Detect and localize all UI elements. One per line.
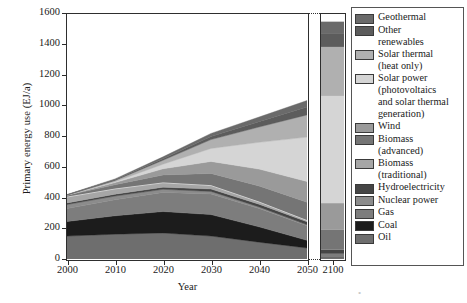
legend-item[interactable]: Hydroelectricity [355, 181, 461, 194]
x-axis-tick-mark [212, 261, 213, 265]
legend-swatch-icon [355, 221, 374, 231]
legend-item-label: Coal [378, 219, 461, 231]
y-axis-tick-label: 1000 [24, 99, 60, 109]
legend-item[interactable]: Gas [355, 206, 461, 219]
area-band-2100 [321, 250, 344, 254]
legend-item[interactable]: Solar thermal (heat only) [355, 48, 461, 72]
legend-item-label: Solar power (photovoltaics and solar the… [378, 72, 461, 120]
x-axis-tick-label: 2100 [310, 264, 356, 275]
legend-item[interactable]: Biomass (traditional) [355, 157, 461, 181]
y-axis-tick-label: 800 [24, 130, 60, 140]
legend-item[interactable]: Solar power (photovoltaics and solar the… [355, 72, 461, 120]
legend-item-label: Other renewables [378, 24, 461, 48]
legend-item[interactable]: Geothermal [355, 11, 461, 24]
legend-item-label: Biomass (advanced) [378, 133, 461, 157]
legend-item-label: Wind [378, 120, 461, 132]
legend: GeothermalOther renewablesSolar thermal … [351, 7, 464, 266]
legend-item-label: Oil [378, 231, 461, 243]
legend-swatch-icon [355, 196, 374, 206]
area-band-2100 [321, 47, 344, 96]
legend-swatch-icon [355, 159, 374, 169]
y-axis-tick-mark [62, 75, 66, 76]
y-axis-tick-mark [62, 44, 66, 45]
x-axis-tick-label: 2030 [189, 264, 235, 275]
legend-swatch-icon [355, 184, 374, 194]
main-plot-area [66, 13, 309, 261]
area-band-2100 [321, 33, 344, 47]
y-axis-tick-label: 1200 [24, 69, 60, 79]
legend-item-label: Solar thermal (heat only) [378, 48, 461, 72]
x-axis-tick-label: 2010 [93, 264, 139, 275]
y-axis-tick-group: 16001400120010008006004002000 [22, 0, 60, 303]
axis-break-dashes [309, 13, 320, 14]
area-band-2100 [321, 22, 344, 33]
energy-scenario-chart-figure: Primary energy use (EJ/a) 16001400120010… [0, 0, 467, 303]
legend-item-label: Nuclear power [378, 194, 461, 206]
y-axis-tick-label: 1400 [24, 38, 60, 48]
y-axis-tick-mark [62, 198, 66, 199]
legend-item[interactable]: Wind [355, 120, 461, 133]
legend-item[interactable]: Nuclear power [355, 194, 461, 207]
x-axis-tick-mark [164, 261, 165, 265]
area-band-2100 [321, 96, 344, 203]
x-axis-tick-label: 2000 [45, 264, 91, 275]
area-band-2100 [321, 230, 344, 250]
legend-swatch-icon [355, 26, 374, 36]
x-axis-tick-mark [116, 261, 117, 265]
y-axis-tick-mark [62, 167, 66, 168]
legend-item[interactable]: Oil [355, 231, 461, 244]
y-axis-tick-label: 1600 [24, 7, 60, 17]
legend-swatch-icon [355, 234, 374, 244]
legend-swatch-icon [355, 50, 374, 60]
x-axis-tick-mark [68, 261, 69, 265]
legend-swatch-icon [355, 14, 374, 24]
x-axis-title: Year [66, 281, 309, 292]
y-axis-tick-label: 0 [24, 253, 60, 263]
area-band-2100 [321, 203, 344, 230]
axis-break-dashes [309, 259, 320, 260]
area-band-2100 [321, 258, 344, 259]
legend-swatch-icon [355, 135, 374, 145]
y-axis-tick-mark [62, 228, 66, 229]
y-axis-tick-mark [62, 136, 66, 137]
legend-item[interactable]: Coal [355, 219, 461, 232]
area-band-2100 [321, 254, 344, 257]
y-axis-tick-mark [62, 105, 66, 106]
y-axis-tick-label: 400 [24, 192, 60, 202]
legend-item-label: Hydroelectricity [378, 181, 461, 193]
legend-swatch-icon [355, 209, 374, 219]
y-axis-tick-mark [62, 259, 66, 260]
x-axis-tick-mark [333, 261, 334, 265]
x-axis-tick-mark [260, 261, 261, 265]
stacked-area-series [67, 14, 307, 259]
year-2100-panel [320, 13, 346, 261]
legend-swatch-icon [355, 123, 374, 133]
legend-swatch-icon [355, 74, 374, 84]
x-axis-tick-label: 2020 [141, 264, 187, 275]
stacked-area-2100 [321, 14, 344, 259]
x-axis-tick-label: 2040 [237, 264, 283, 275]
legend-item-label: Biomass (traditional) [378, 157, 461, 181]
area-band-2100 [321, 257, 344, 258]
x-axis-tick-mark [308, 261, 309, 265]
y-axis-tick-label: 600 [24, 161, 60, 171]
legend-item[interactable]: Other renewables [355, 24, 461, 48]
y-axis-tick-label: 200 [24, 222, 60, 232]
y-axis-tick-mark [62, 13, 66, 14]
legend-item-label: Geothermal [378, 11, 461, 23]
legend-item-label: Gas [378, 206, 461, 218]
page-artifact: • [358, 288, 361, 298]
legend-item[interactable]: Biomass (advanced) [355, 133, 461, 157]
